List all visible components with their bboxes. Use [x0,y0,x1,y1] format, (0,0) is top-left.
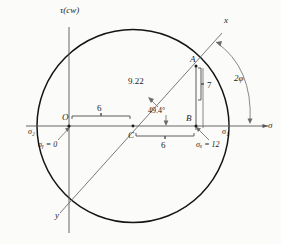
sigma-y-value-label: σᵧ = 0 [38,141,57,149]
axis-x-label: x [224,16,228,25]
mohrs-circle-drawing [0,0,281,244]
brace-upper-value-label: 6 [97,104,102,113]
angle-value-label: 49.4° [148,107,165,115]
sigma-1-label: σ₁ [222,128,229,136]
sigma-2-label: σ₂ [28,128,35,136]
leader-angle-lower-arrowhead [164,121,169,127]
point-marker-o [67,124,70,127]
point-label-o: O [62,113,69,122]
sigma-axis-label: σ [268,121,272,130]
leader-sigma-x [198,129,209,140]
point-label-b: B [186,114,192,123]
brace-c-to-b [136,133,194,139]
point-label-c: C [128,131,134,140]
mohrs-circle-figure: τ(cw) σ x y O A B C σ₂ σ₁ σᵧ = 0 σₓ = 12… [0,0,281,244]
two-phi-arc-arrowhead-bottom [248,119,253,125]
point-marker-a [195,65,198,68]
sigma-x-value-label: σₓ = 12 [196,141,220,149]
radius-value-label: 9.22 [128,77,144,86]
two-phi-label: 2φ [234,74,243,83]
point-label-a: A [190,55,196,64]
axis-y-label: y [55,211,59,220]
point-marker-b [195,125,198,128]
xy-diagonal-line [60,33,222,213]
brace-o-to-c [72,113,130,119]
tau-axis-label: τ(cw) [60,6,79,15]
point-marker-c [132,125,135,128]
shear-value-label: 7 [207,81,212,90]
brace-lower-value-label: 6 [161,141,166,150]
